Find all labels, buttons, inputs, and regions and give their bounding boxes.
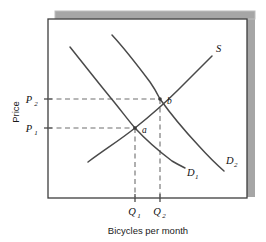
- y-tick-p2-base: P: [25, 94, 33, 105]
- equilibrium-point-b: [158, 97, 162, 101]
- demand-2-label-base: D: [225, 155, 234, 166]
- y-tick-p1-base: P: [25, 123, 33, 134]
- equilibrium-label-b: b: [167, 96, 172, 106]
- supply-demand-figure: Price Bicycles per month P 2 P 1 Q 1 Q: [0, 0, 266, 242]
- supply-demand-chart: Price Bicycles per month P 2 P 1 Q 1 Q: [0, 0, 266, 242]
- x-tick-label-q2: Q 2: [153, 206, 166, 220]
- x-tick-label-q1: Q 1: [128, 206, 141, 220]
- x-tick-q1-base: Q: [128, 206, 136, 217]
- y-axis-title: Price: [10, 101, 21, 123]
- y-tick-label-p1: P 1: [25, 123, 38, 137]
- x-tick-q2-base: Q: [153, 206, 161, 217]
- x-axis-title: Bicycles per month: [108, 225, 188, 236]
- demand-1-label-base: D: [186, 167, 195, 178]
- supply-curve-label: S: [216, 43, 222, 54]
- y-tick-label-p2: P 2: [25, 94, 38, 108]
- demand-1-label-subscript: 1: [195, 173, 199, 181]
- x-tick-q1-subscript: 1: [137, 212, 141, 220]
- y-tick-p2-subscript: 2: [34, 100, 38, 108]
- equilibrium-label-a: a: [142, 125, 147, 135]
- demand-2-label-subscript: 2: [234, 161, 238, 169]
- x-tick-q2-subscript: 2: [162, 212, 166, 220]
- y-tick-p1-subscript: 1: [34, 129, 38, 137]
- equilibrium-point-a: [133, 126, 137, 130]
